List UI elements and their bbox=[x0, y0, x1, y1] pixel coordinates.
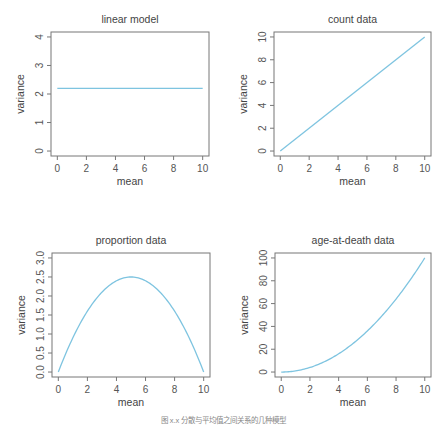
x-tick-label: 6 bbox=[365, 384, 371, 395]
y-axis-label: variance bbox=[15, 295, 27, 335]
y-tick-label: 6 bbox=[257, 79, 268, 85]
x-axis-label: mean bbox=[339, 175, 365, 187]
y-tick-label: 1 bbox=[34, 119, 45, 125]
x-tick-label: 0 bbox=[278, 384, 284, 395]
plot-frame bbox=[51, 32, 209, 156]
y-tick-label: 0.0 bbox=[35, 365, 46, 379]
x-tick-label: 2 bbox=[85, 384, 91, 395]
y-tick-label: 0 bbox=[257, 148, 268, 154]
x-tick-label: 10 bbox=[197, 163, 209, 174]
data-line bbox=[281, 258, 425, 372]
x-tick-label: 2 bbox=[307, 384, 313, 395]
x-tick-label: 8 bbox=[172, 384, 178, 395]
plot-frame bbox=[52, 253, 210, 377]
y-tick-label: 4 bbox=[34, 34, 45, 40]
y-tick-label: 1.5 bbox=[35, 308, 46, 322]
y-tick-label: 0 bbox=[258, 369, 269, 375]
y-tick-label: 2 bbox=[257, 125, 268, 131]
x-tick-label: 4 bbox=[113, 163, 119, 174]
x-tick-label: 0 bbox=[55, 163, 61, 174]
data-line bbox=[58, 277, 203, 372]
y-tick-label: 8 bbox=[257, 57, 268, 63]
y-axis-label: variance bbox=[238, 295, 250, 335]
x-tick-label: 8 bbox=[171, 163, 177, 174]
plot-panel-1: linear model024681001234meanvariance bbox=[14, 13, 209, 187]
x-tick-label: 4 bbox=[335, 163, 341, 174]
chart-canvas: linear model024681001234meanvariancecoun… bbox=[0, 0, 447, 429]
y-tick-label: 3 bbox=[34, 62, 45, 68]
plot-title: age-at-death data bbox=[312, 234, 395, 246]
plot-title: linear model bbox=[101, 13, 158, 25]
y-tick-label: 0 bbox=[34, 148, 45, 154]
plot-panel-3: proportion data02468100.00.51.01.52.02.5… bbox=[15, 234, 210, 408]
y-tick-label: 60 bbox=[258, 298, 269, 310]
x-tick-label: 0 bbox=[277, 163, 283, 174]
y-tick-label: 0.5 bbox=[35, 346, 46, 360]
x-tick-label: 10 bbox=[419, 163, 431, 174]
y-tick-label: 20 bbox=[258, 343, 269, 355]
x-tick-label: 0 bbox=[56, 384, 62, 395]
x-tick-label: 2 bbox=[84, 163, 90, 174]
x-tick-label: 4 bbox=[114, 384, 120, 395]
y-axis-label: variance bbox=[237, 74, 249, 114]
plot-panel-2: count data02468100246810meanvariance bbox=[237, 13, 431, 187]
figure-caption: 图 x.x 分散与平均值之间关系的几种模型 bbox=[0, 414, 447, 425]
y-tick-label: 1.0 bbox=[35, 327, 46, 341]
plot-panel-4: age-at-death data0246810020406080100mean… bbox=[238, 234, 431, 408]
y-tick-label: 2 bbox=[34, 91, 45, 97]
plot-title: count data bbox=[328, 13, 377, 25]
x-tick-label: 8 bbox=[393, 384, 399, 395]
x-tick-label: 8 bbox=[393, 163, 399, 174]
y-tick-label: 100 bbox=[258, 249, 269, 266]
x-axis-label: mean bbox=[340, 396, 366, 408]
plot-frame bbox=[275, 253, 431, 377]
x-tick-label: 6 bbox=[364, 163, 370, 174]
y-tick-label: 2.5 bbox=[35, 270, 46, 284]
x-tick-label: 2 bbox=[306, 163, 312, 174]
x-tick-label: 4 bbox=[336, 384, 342, 395]
x-tick-label: 6 bbox=[143, 384, 149, 395]
y-tick-label: 2.0 bbox=[35, 289, 46, 303]
data-line bbox=[280, 37, 424, 151]
y-tick-label: 10 bbox=[257, 31, 268, 43]
x-axis-label: mean bbox=[117, 175, 143, 187]
x-tick-label: 10 bbox=[198, 384, 210, 395]
x-tick-label: 10 bbox=[419, 384, 431, 395]
plot-title: proportion data bbox=[96, 234, 167, 246]
y-tick-label: 80 bbox=[258, 275, 269, 287]
y-tick-label: 40 bbox=[258, 320, 269, 332]
x-tick-label: 6 bbox=[142, 163, 148, 174]
y-axis-label: variance bbox=[14, 74, 26, 114]
x-axis-label: mean bbox=[118, 396, 144, 408]
y-tick-label: 4 bbox=[257, 102, 268, 108]
y-tick-label: 3.0 bbox=[35, 251, 46, 265]
